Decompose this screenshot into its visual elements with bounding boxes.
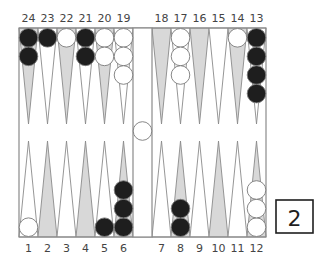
black-checker[interactable] — [114, 199, 133, 218]
black-checker[interactable] — [171, 199, 190, 218]
cube-value: 2 — [288, 206, 302, 231]
black-checker[interactable] — [95, 218, 114, 237]
black-checker[interactable] — [247, 66, 266, 85]
point-label-5: 5 — [101, 242, 108, 255]
point-label-2: 2 — [44, 242, 51, 255]
top-point-labels: 242322212019181716151413 — [22, 12, 264, 25]
point-label-8: 8 — [177, 242, 184, 255]
point-label-23: 23 — [41, 12, 55, 25]
white-checker[interactable] — [171, 47, 190, 66]
black-checker[interactable] — [76, 29, 95, 48]
black-checker[interactable] — [114, 181, 133, 200]
black-checker[interactable] — [38, 29, 57, 48]
black-checker[interactable] — [247, 47, 266, 66]
white-checker[interactable] — [114, 47, 133, 66]
point-label-10: 10 — [212, 242, 226, 255]
white-checker[interactable] — [228, 29, 247, 48]
white-checker[interactable] — [114, 66, 133, 85]
black-checker[interactable] — [19, 47, 38, 66]
black-checker[interactable] — [19, 29, 38, 48]
point-label-7: 7 — [158, 242, 165, 255]
black-checker[interactable] — [171, 218, 190, 237]
black-checker[interactable] — [76, 47, 95, 66]
backgammon-board: 242322212019181716151413 123456789101112… — [0, 0, 328, 267]
backgammon-position-diagram: 242322212019181716151413 123456789101112… — [0, 0, 328, 267]
point-label-12: 12 — [250, 242, 264, 255]
point-label-11: 11 — [231, 242, 245, 255]
white-checker[interactable] — [95, 47, 114, 66]
point-label-3: 3 — [63, 242, 70, 255]
point-label-14: 14 — [231, 12, 245, 25]
black-checker[interactable] — [247, 84, 266, 103]
point-label-6: 6 — [120, 242, 127, 255]
white-checker[interactable] — [171, 66, 190, 85]
white-checker[interactable] — [247, 199, 266, 218]
white-checker[interactable] — [95, 29, 114, 48]
white-checker[interactable] — [247, 218, 266, 237]
point-label-21: 21 — [79, 12, 93, 25]
black-checker[interactable] — [247, 29, 266, 48]
white-checker[interactable] — [247, 181, 266, 200]
white-checker[interactable] — [19, 218, 38, 237]
point-label-20: 20 — [98, 12, 112, 25]
point-label-24: 24 — [22, 12, 36, 25]
white-checker-on-bar[interactable] — [133, 122, 152, 141]
white-checker[interactable] — [114, 29, 133, 48]
point-label-17: 17 — [174, 12, 188, 25]
point-label-13: 13 — [250, 12, 264, 25]
white-checker[interactable] — [57, 29, 76, 48]
point-label-15: 15 — [212, 12, 226, 25]
point-label-9: 9 — [196, 242, 203, 255]
doubling-cube[interactable]: 2 — [276, 200, 313, 233]
white-checker[interactable] — [171, 29, 190, 48]
bottom-point-labels: 123456789101112 — [25, 242, 264, 255]
point-label-18: 18 — [155, 12, 169, 25]
point-label-16: 16 — [193, 12, 207, 25]
point-label-1: 1 — [25, 242, 32, 255]
point-label-19: 19 — [117, 12, 131, 25]
black-checker[interactable] — [114, 218, 133, 237]
point-label-22: 22 — [60, 12, 74, 25]
point-label-4: 4 — [82, 242, 89, 255]
